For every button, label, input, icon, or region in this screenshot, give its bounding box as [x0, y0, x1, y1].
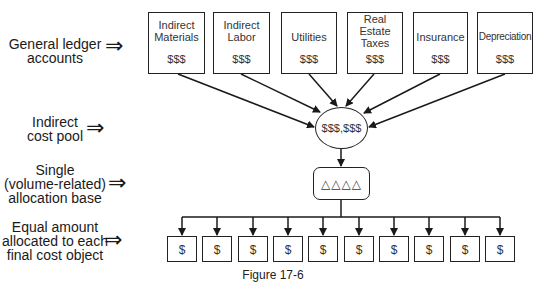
- label-equal-amount: Equal amount allocated to each final cos…: [0, 220, 110, 262]
- account-name: Insurance: [414, 31, 467, 43]
- account-depreciation: Depreciation $$$: [477, 12, 533, 74]
- cost-object-amount: $: [486, 243, 514, 257]
- double-arrow-icon: ⇒: [104, 229, 122, 251]
- account-utilities: Utilities $$$: [281, 12, 337, 74]
- cost-object-box: $: [202, 236, 232, 262]
- cost-object-amount: $: [380, 243, 408, 257]
- label-line: final cost object: [0, 248, 110, 262]
- account-indirect-labor: IndirectLabor $$$: [213, 12, 270, 74]
- cost-object-box: $: [167, 236, 197, 262]
- label-general-ledger-accounts: General ledger accounts: [0, 37, 110, 65]
- account-amount: $$$: [414, 53, 467, 65]
- account-indirect-materials: IndirectMaterials $$$: [148, 12, 205, 74]
- cost-object-box: $: [414, 236, 444, 262]
- arrow-indirect-materials: [178, 74, 314, 127]
- label-line: allocated to each: [0, 234, 110, 248]
- account-insurance: Insurance $$$: [413, 12, 468, 74]
- account-amount: $$$: [282, 53, 336, 65]
- label-line: accounts: [0, 51, 110, 65]
- cost-object-amount: $: [203, 243, 231, 257]
- cost-object-box: $: [308, 236, 338, 262]
- arrow-indirect-labor: [241, 74, 320, 112]
- account-name: Materials: [149, 31, 204, 43]
- label-allocation-base: Single (volume-related) allocation base: [0, 163, 110, 205]
- label-line: General ledger: [0, 37, 110, 51]
- cost-object-box: $: [485, 236, 515, 262]
- account-amount: $$$: [478, 53, 532, 65]
- account-name: Utilities: [282, 31, 336, 43]
- double-arrow-icon: ⇒: [86, 117, 104, 139]
- account-amount: $$$: [149, 53, 204, 65]
- cost-pool-amount: $$$,$$$: [316, 122, 367, 134]
- account-name: Labor: [214, 31, 269, 43]
- cost-object-amount: $: [309, 243, 337, 257]
- indirect-cost-pool-ellipse: $$$,$$$: [315, 107, 368, 149]
- cost-object-box: $: [450, 236, 480, 262]
- cost-object-amount: $: [451, 243, 479, 257]
- cost-object-amount: $: [415, 243, 443, 257]
- cost-object-amount: $: [168, 243, 196, 257]
- distribution-arrows: [182, 217, 500, 235]
- account-amount: $$$: [214, 53, 269, 65]
- account-amount: $$$: [348, 53, 402, 65]
- allocation-base-box: △△△△: [313, 167, 370, 200]
- cost-object-amount: $: [345, 243, 373, 257]
- label-line: allocation base: [0, 191, 110, 205]
- cost-object-box: $: [344, 236, 374, 262]
- cost-object-box: $: [238, 236, 268, 262]
- cost-object-box: $: [379, 236, 409, 262]
- figure-caption: Figure 17-6: [223, 268, 323, 282]
- cost-object-box: $: [273, 236, 303, 262]
- label-line: Single: [0, 163, 110, 177]
- cost-object-amount: $: [239, 243, 267, 257]
- arrow-utilities: [309, 74, 337, 106]
- account-name: Real: [348, 13, 402, 25]
- arrow-insurance: [364, 74, 440, 113]
- account-name: Estate: [348, 25, 402, 37]
- cost-object-amount: $: [274, 243, 302, 257]
- account-name: Indirect: [149, 19, 204, 31]
- account-name: Depreciation: [478, 31, 532, 43]
- label-line: (volume-related): [0, 177, 110, 191]
- account-name: Indirect: [214, 19, 269, 31]
- account-real-estate-taxes: RealEstateTaxes $$$: [347, 12, 403, 74]
- label-line: Equal amount: [0, 220, 110, 234]
- double-arrow-icon: ⇒: [108, 172, 126, 194]
- double-arrow-icon: ⇒: [105, 35, 123, 57]
- account-name: Taxes: [348, 37, 402, 49]
- arrow-real-estate-taxes: [346, 74, 374, 106]
- triangle-icons: △△△△: [314, 177, 369, 191]
